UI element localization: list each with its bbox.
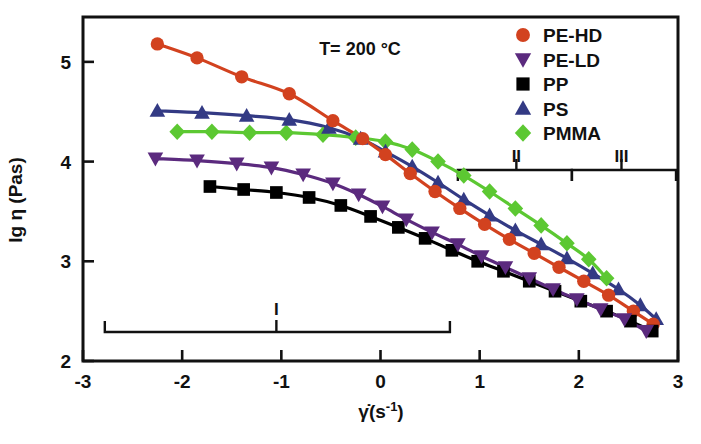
y-axis-title: lg η (Pas): [5, 157, 26, 243]
region-label-iii: III: [614, 147, 628, 166]
marker-pe-hd: [503, 233, 516, 246]
data-series-group: [155, 44, 656, 331]
legend-marker-ps: [515, 100, 531, 114]
region-bracket-iii: [572, 170, 676, 181]
marker-pmma: [404, 141, 420, 158]
marker-pe-hd: [602, 289, 615, 302]
legend-label-pp: PP: [543, 74, 569, 95]
marker-pp: [364, 210, 377, 223]
marker-pp: [270, 186, 283, 199]
legend-marker-pp: [516, 77, 529, 90]
marker-pe-hd: [528, 247, 541, 260]
marker-pmma: [278, 124, 294, 141]
marker-pe-hd: [428, 185, 441, 198]
annotations: T= 200 °C: [319, 39, 401, 59]
marker-pe-hd: [235, 70, 248, 83]
y-tick-label: 3: [60, 251, 71, 272]
x-tick-label: 2: [574, 371, 585, 392]
axis-titles: lg η (Pas)γ̇(s-1): [5, 157, 404, 422]
marker-pmma: [482, 183, 498, 200]
marker-pmma: [430, 153, 446, 170]
x-tick-label: -1: [273, 371, 290, 392]
marker-pe-hd: [404, 167, 417, 180]
marker-pp: [237, 183, 250, 196]
x-axis-paren: ): [397, 401, 403, 422]
marker-pmma: [508, 200, 524, 217]
x-tick-label: -3: [75, 371, 92, 392]
y-tick-label: 4: [60, 152, 71, 173]
marker-pmma: [533, 217, 549, 234]
marker-pmma: [204, 123, 220, 140]
legend-marker-pe-hd: [516, 28, 530, 42]
marker-pe-hd: [190, 51, 203, 64]
legend-label-pe-hd: PE-HD: [543, 25, 602, 46]
region-label-ii: II: [512, 147, 521, 166]
legend-marker-pe-ld: [515, 53, 531, 67]
marker-pe-hd: [283, 87, 296, 100]
legend-label-pe-ld: PE-LD: [543, 50, 600, 71]
marker-pp: [335, 199, 348, 212]
marker-pe-hd: [326, 114, 339, 127]
legend: PE-HDPE-LDPPPSPMMA: [515, 25, 602, 144]
legend-label-pmma: PMMA: [543, 123, 601, 144]
series-markers-pe-hd: [151, 37, 660, 331]
x-axis-title: γ̇(s-1): [358, 399, 403, 422]
x-tick-label: 0: [375, 371, 386, 392]
region-bracket-ii: [458, 170, 572, 181]
x-tick-label: -2: [174, 371, 191, 392]
marker-pe-hd: [478, 218, 491, 231]
x-tick-label: 1: [474, 371, 485, 392]
y-tick-label: 2: [60, 351, 71, 372]
marker-pmma: [169, 123, 185, 140]
marker-pe-hd: [379, 148, 392, 161]
axis-ticks: [83, 62, 678, 361]
marker-pe-ld: [375, 200, 391, 214]
x-axis-unit: (s: [369, 401, 386, 422]
chart-figure: -3-2-101232345 IIIIII PE-HDPE-LDPPPSPMMA…: [0, 0, 701, 444]
series-markers-pe-ld: [148, 153, 655, 339]
chart-canvas: -3-2-101232345 IIIIII PE-HDPE-LDPPPSPMMA…: [0, 0, 701, 444]
y-tick-label: 5: [60, 52, 71, 73]
marker-pe-hd: [552, 261, 565, 274]
marker-pe-hd: [356, 132, 369, 145]
marker-pp: [392, 221, 405, 234]
legend-label-ps: PS: [543, 99, 568, 120]
legend-marker-pmma: [515, 124, 531, 141]
x-tick-label: 3: [673, 371, 684, 392]
marker-pp: [204, 180, 217, 193]
marker-pmma: [242, 124, 258, 141]
marker-pe-hd: [151, 37, 164, 50]
marker-pe-hd: [577, 275, 590, 288]
marker-pe-hd: [453, 202, 466, 215]
marker-pp: [303, 191, 316, 204]
temperature-annotation: T= 200 °C: [319, 39, 401, 59]
region-label-i: I: [274, 300, 279, 319]
x-axis-exponent: -1: [386, 399, 398, 414]
